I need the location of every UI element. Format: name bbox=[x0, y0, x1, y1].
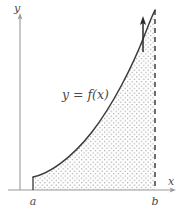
figure-canvas: y x a b y = f(x) bbox=[0, 0, 183, 219]
tick-label-a: a bbox=[30, 195, 37, 208]
diagram-svg: y x a b y = f(x) bbox=[0, 0, 183, 219]
y-axis bbox=[18, 13, 23, 190]
y-axis-label: y bbox=[13, 2, 21, 15]
function-equation-label: y = f(x) bbox=[61, 87, 109, 102]
tick-label-b: b bbox=[151, 195, 158, 208]
x-axis-label: x bbox=[168, 175, 175, 188]
